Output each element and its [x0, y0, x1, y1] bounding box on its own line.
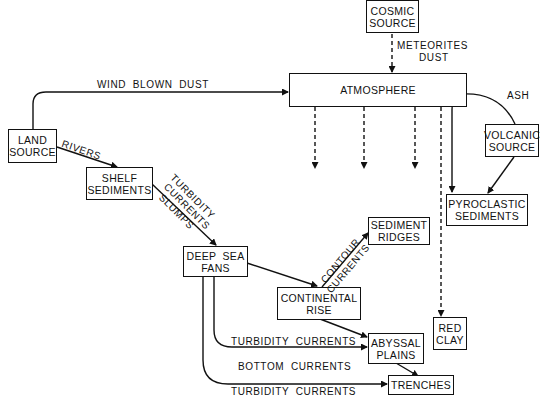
shelf-sediments-node: SHELF SEDIMENTS	[86, 167, 153, 200]
node-label: SHELF	[102, 172, 137, 184]
edge-label-line: DUST	[397, 52, 468, 64]
node-label: TRENCHES	[391, 379, 451, 391]
node-label: CONTINENTAL	[281, 292, 358, 304]
node-label: SEDIMENT	[371, 219, 428, 231]
node-label: VOLCANIC	[484, 129, 540, 141]
volcanic-source-node: VOLCANIC SOURCE	[485, 124, 539, 157]
node-label: RISE	[306, 304, 332, 316]
abyssal-plains-node: ABYSSAL PLAINS	[368, 333, 424, 364]
fans-to-rise-arrow	[247, 263, 317, 286]
red-clay-node: RED CLAY	[433, 317, 467, 350]
trenches-node: TRENCHES	[388, 375, 454, 395]
node-label: SOURCE	[489, 141, 536, 153]
node-label: CLAY	[436, 334, 464, 346]
turbidity-currents-label-1: TURBIDITY CURRENTS	[231, 336, 356, 347]
continental-rise-node: CONTINENTAL RISE	[277, 287, 361, 320]
atmosphere-node: ATMOSPHERE	[289, 73, 467, 107]
node-label: SOURCE	[369, 17, 416, 29]
pyroclastic-sediments-node: PYROCLASTIC SEDIMENTS	[446, 194, 528, 226]
node-label: SOURCE	[9, 146, 56, 158]
meteorites-dust-label: METEORITES DUST	[397, 40, 468, 64]
wind-blown-dust-label: WIND BLOWN DUST	[97, 79, 209, 90]
node-label: RED	[438, 322, 461, 334]
node-label: FANS	[201, 262, 230, 274]
bottom-currents-label: BOTTOM CURRENTS	[238, 361, 351, 372]
turbidity-currents-label-2: TURBIDITY CURRENTS	[231, 386, 356, 397]
node-label: LAND	[18, 134, 47, 146]
wind-blown-dust-arrow	[33, 92, 288, 129]
node-label: PLAINS	[376, 349, 415, 361]
node-label: ABYSSAL	[371, 337, 421, 349]
edge-label-line: METEORITES	[397, 40, 468, 52]
node-label: SEDIMENTS	[88, 184, 152, 196]
node-label: SEDIMENTS	[455, 210, 519, 222]
node-label: ATMOSPHERE	[340, 84, 416, 96]
deep-sea-fans-node: DEEP SEA FANS	[183, 246, 248, 277]
node-label: PYROCLASTIC	[448, 198, 525, 210]
cosmic-source-node: COSMIC SOURCE	[366, 0, 419, 33]
node-label: DEEP SEA	[187, 250, 245, 262]
volcanic-to-pyroclastic-arrow	[488, 157, 514, 193]
land-source-node: LAND SOURCE	[8, 129, 57, 163]
node-label: COSMIC	[371, 5, 415, 17]
rise-to-abyssal-arrow	[320, 319, 367, 337]
ash-label: ASH	[507, 90, 529, 101]
node-label: RIDGES	[378, 231, 420, 243]
sediment-ridges-node: SEDIMENT RIDGES	[368, 217, 430, 245]
